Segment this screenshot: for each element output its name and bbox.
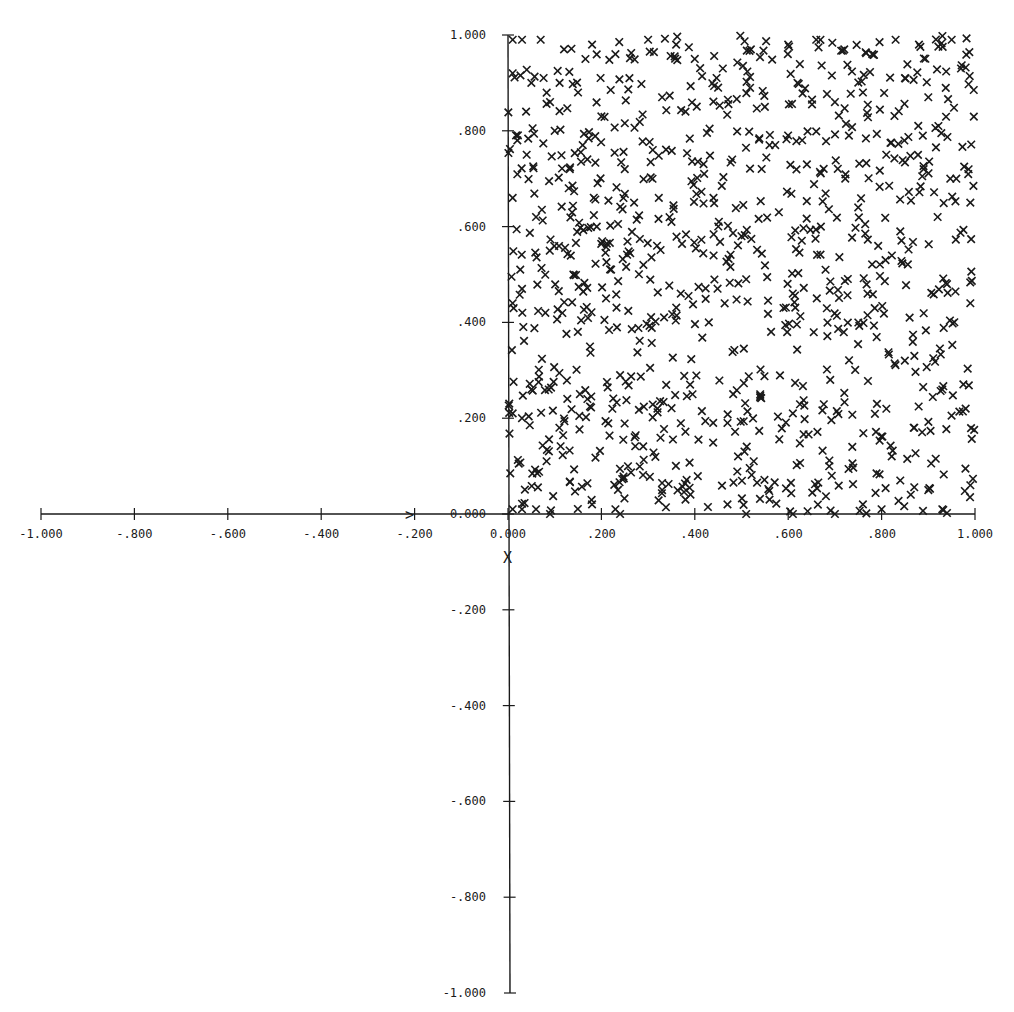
x-marker-point bbox=[597, 75, 603, 81]
x-marker-point bbox=[605, 197, 611, 203]
x-marker-point bbox=[911, 353, 917, 359]
x-marker-point bbox=[673, 41, 679, 47]
x-marker-point bbox=[931, 189, 937, 195]
x-marker-point bbox=[764, 214, 770, 220]
x-marker-point bbox=[699, 334, 705, 340]
x-marker-point bbox=[905, 134, 911, 140]
x-marker-point bbox=[729, 349, 735, 355]
x-marker-point bbox=[741, 38, 747, 44]
y-tick-label: .400 bbox=[457, 315, 486, 329]
x-marker-point bbox=[531, 325, 537, 331]
x-marker-point bbox=[735, 453, 741, 459]
x-marker-point bbox=[835, 166, 841, 172]
x-marker-point bbox=[934, 214, 940, 220]
x-marker-point bbox=[724, 501, 730, 507]
x-marker-point bbox=[628, 50, 634, 56]
x-marker-point bbox=[823, 138, 829, 144]
x-marker-point bbox=[576, 220, 582, 226]
x-marker-point bbox=[827, 507, 833, 513]
x-marker-point bbox=[831, 310, 837, 316]
x-marker-point bbox=[716, 377, 722, 383]
x-marker-point bbox=[761, 477, 767, 483]
x-marker-point bbox=[734, 468, 740, 474]
x-marker-point bbox=[631, 199, 637, 205]
x-marker-point bbox=[720, 65, 726, 71]
x-marker-point bbox=[564, 377, 570, 383]
x-marker-point bbox=[921, 310, 927, 316]
x-marker-point bbox=[908, 492, 914, 498]
x-marker-point bbox=[520, 392, 526, 398]
x-marker-point bbox=[748, 236, 754, 242]
x-marker-point bbox=[904, 456, 910, 462]
x-marker-point bbox=[856, 214, 862, 220]
x-marker-point bbox=[870, 291, 876, 297]
x-marker-point bbox=[666, 282, 672, 288]
x-marker-point bbox=[714, 286, 720, 292]
x-marker-point bbox=[587, 350, 593, 356]
x-marker-point bbox=[871, 322, 877, 328]
x-marker-point bbox=[556, 288, 562, 294]
x-marker-point bbox=[535, 308, 541, 314]
x-marker-point bbox=[575, 89, 581, 95]
x-marker-point bbox=[824, 305, 830, 311]
x-marker-point bbox=[576, 426, 582, 432]
x-marker-point bbox=[730, 479, 736, 485]
x-marker-point bbox=[754, 247, 760, 253]
x-marker-point bbox=[673, 317, 679, 323]
x-marker-point bbox=[804, 198, 810, 204]
x-marker-point bbox=[836, 295, 842, 301]
x-marker-point bbox=[939, 33, 945, 39]
x-marker-point bbox=[846, 357, 852, 363]
x-marker-point bbox=[606, 432, 612, 438]
x-marker-point bbox=[662, 36, 668, 42]
x-marker-point bbox=[824, 319, 830, 325]
x-marker-point bbox=[611, 124, 617, 130]
x-marker-point bbox=[542, 310, 548, 316]
x-marker-point bbox=[567, 479, 573, 485]
x-marker-point bbox=[937, 345, 943, 351]
x-marker-point bbox=[533, 214, 539, 220]
x-marker-point bbox=[622, 120, 628, 126]
x-marker-point bbox=[739, 495, 745, 501]
x-marker-point bbox=[606, 57, 612, 63]
x-marker-point bbox=[845, 319, 851, 325]
x-marker-point bbox=[679, 241, 685, 247]
x-marker-point bbox=[862, 221, 868, 227]
x-marker-point bbox=[792, 304, 798, 310]
x-marker-point bbox=[836, 482, 842, 488]
x-marker-point bbox=[941, 200, 947, 206]
x-marker-point bbox=[725, 101, 731, 107]
x-marker-point bbox=[960, 381, 966, 387]
x-marker-point bbox=[897, 196, 903, 202]
x-tick-label: -.800 bbox=[116, 527, 152, 541]
x-marker-point bbox=[692, 56, 698, 62]
x-marker-point bbox=[568, 406, 574, 412]
x-marker-point bbox=[967, 199, 973, 205]
x-marker-point bbox=[897, 228, 903, 234]
x-marker-point bbox=[700, 250, 706, 256]
x-marker-point bbox=[540, 75, 546, 81]
x-marker-point bbox=[897, 477, 903, 483]
x-marker-point bbox=[826, 457, 832, 463]
x-marker-point bbox=[616, 39, 622, 45]
x-marker-point bbox=[787, 71, 793, 77]
x-marker-point bbox=[943, 68, 949, 74]
x-marker-point bbox=[803, 215, 809, 221]
x-marker-point bbox=[892, 37, 898, 43]
x-marker-point bbox=[945, 96, 951, 102]
x-marker-point bbox=[610, 395, 616, 401]
x-marker-point bbox=[584, 156, 590, 162]
y-tick-label: -.200 bbox=[450, 603, 486, 617]
x-marker-point bbox=[573, 240, 579, 246]
x-marker-point bbox=[920, 132, 926, 138]
x-marker-point bbox=[845, 276, 851, 282]
x-marker-point bbox=[566, 69, 572, 75]
x-marker-point bbox=[740, 202, 746, 208]
x-marker-point bbox=[951, 105, 957, 111]
y-axis-ticks: 1.000.800.600.400.2000.000-.200-.400-.60… bbox=[443, 28, 516, 1000]
x-marker-point bbox=[757, 496, 763, 502]
x-marker-point bbox=[692, 321, 698, 327]
x-marker-point bbox=[820, 198, 826, 204]
x-marker-point bbox=[755, 216, 761, 222]
x-marker-point bbox=[558, 152, 564, 158]
